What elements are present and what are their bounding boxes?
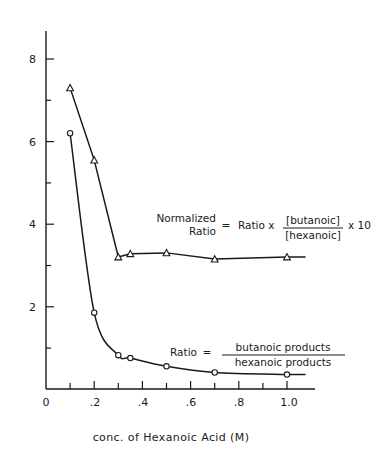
- data-point-circle: [128, 355, 133, 360]
- x-tick-label-1p0: 1.0: [280, 396, 298, 409]
- x-tick-label-0p8: .8: [234, 396, 245, 409]
- y-tick-label-8: 8: [29, 53, 36, 66]
- data-point-circle: [67, 131, 72, 136]
- data-point-circle: [284, 372, 289, 377]
- normalized-ratio-lhs-line2: Ratio: [189, 225, 216, 237]
- data-point-circle: [92, 310, 97, 315]
- ratio-denominator: hexanoic products: [235, 356, 332, 368]
- ratio-equals: =: [203, 346, 212, 358]
- x-tick-label-0p4: .4: [138, 396, 149, 409]
- normalized-ratio-lhs-line1: Normalized: [156, 212, 216, 224]
- y-tick-label-4: 4: [29, 218, 36, 231]
- x-tick-label-0p6: .6: [186, 396, 197, 409]
- x-tick-label-0: 0: [43, 396, 50, 409]
- ratio-lhs: Ratio: [170, 346, 197, 358]
- data-point-circle: [212, 370, 217, 375]
- normalized-ratio-denominator: [hexanoic]: [285, 229, 341, 241]
- normalized-ratio-equals: =: [222, 219, 231, 231]
- normalized-ratio-rhs-suffix: x 10: [348, 219, 371, 231]
- ratio-numerator: butanoic products: [236, 341, 331, 353]
- x-tick-label-0p2: .2: [90, 396, 101, 409]
- normalized-ratio-numerator: [butanoic]: [286, 214, 340, 226]
- y-tick-label-6: 6: [29, 136, 36, 149]
- data-point-circle: [116, 352, 121, 357]
- data-point-circle: [164, 364, 169, 369]
- chart-figure: 8 6 4 2 0 .2 .4 .6 .8 1.0 Normalized Ra: [0, 0, 381, 460]
- x-axis-title: conc. of Hexanoic Acid (M): [93, 431, 250, 444]
- normalized-ratio-rhs-prefix: Ratio x: [238, 219, 275, 231]
- y-tick-label-2: 2: [29, 301, 36, 314]
